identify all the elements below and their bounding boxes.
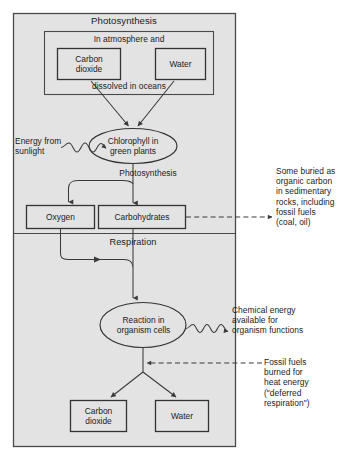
reservoir-top-label: In atmosphere and <box>94 34 165 44</box>
reservoir-bottom-label: dissolved in oceans <box>92 81 166 91</box>
carbohydrates-label: Carbohydrates <box>98 205 186 229</box>
photosynthesis-section-title: Photosynthesis <box>91 16 157 26</box>
fossil-fuels-burned-annotation: Fossil fuels burned for heat energy ("de… <box>264 357 310 408</box>
diagram-canvas: Photosynthesis Respiration In atmosphere… <box>0 0 361 463</box>
water-label-top: Water <box>155 48 206 80</box>
buried-carbon-annotation: Some buried as organic carbon in sedimen… <box>276 166 335 227</box>
photosynthesis-step-label: Photosynthesis <box>119 168 177 178</box>
reaction-label: Reaction in organism cells <box>100 309 187 341</box>
water-label-bottom: Water <box>155 400 209 432</box>
carbon-dioxide-label-bottom: Carbon dioxide <box>70 400 127 432</box>
chemical-energy-annotation: Chemical energy available for organism f… <box>232 305 303 336</box>
respiration-section-title: Respiration <box>109 237 156 247</box>
oxygen-label: Oxygen <box>26 205 95 229</box>
energy-from-sunlight-label: Energy from sunlight <box>15 136 61 156</box>
carbon-dioxide-label-top: Carbon dioxide <box>57 48 121 80</box>
chlorophyll-label: Chlorophyll in green plants <box>89 130 177 162</box>
